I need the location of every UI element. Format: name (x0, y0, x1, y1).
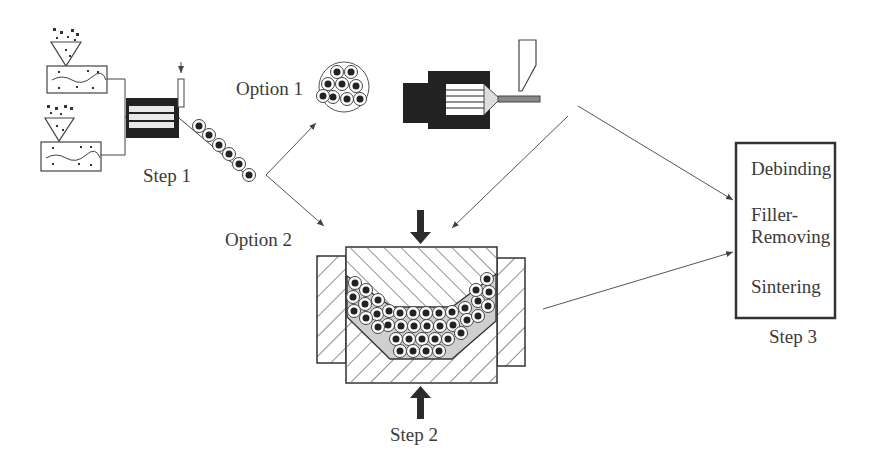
step3-removing: Removing (751, 226, 830, 248)
mixer-top (47, 66, 107, 93)
step2-label: Step 2 (390, 424, 438, 446)
mixer-bottom (41, 142, 101, 171)
compression-mold (317, 210, 525, 419)
hopper-bottom (45, 105, 74, 141)
step3-label: Step 3 (769, 326, 817, 348)
step3-debinding: Debinding (751, 158, 831, 180)
step3-sintering: Sintering (751, 276, 821, 298)
option2-label: Option 2 (225, 229, 292, 251)
option1-label: Option 1 (236, 78, 303, 100)
hopper-top (51, 28, 81, 66)
coextruder (126, 62, 184, 138)
bundle-extruder (403, 40, 540, 129)
press-arrow-top (410, 210, 431, 244)
step3-filler: Filler- (751, 204, 798, 226)
press-arrow-bottom (410, 386, 431, 419)
step1-label: Step 1 (143, 165, 191, 187)
filament-bundle (317, 62, 370, 112)
